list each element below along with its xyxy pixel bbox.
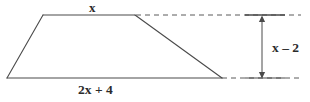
left-slant-side-line [7, 15, 43, 78]
right-slant-side-line [135, 15, 222, 78]
height-arrow-head-up [259, 16, 265, 23]
height-dimension-arrow [259, 16, 265, 79]
top-side-label: x [89, 1, 96, 14]
trapezoid-outline [7, 15, 222, 78]
bottom-side-label: 2x + 4 [78, 83, 113, 97]
height-label: x – 2 [272, 41, 299, 55]
trapezoid-figure [0, 0, 310, 102]
geometry-diagram: x 2x + 4 x – 2 [0, 0, 310, 102]
